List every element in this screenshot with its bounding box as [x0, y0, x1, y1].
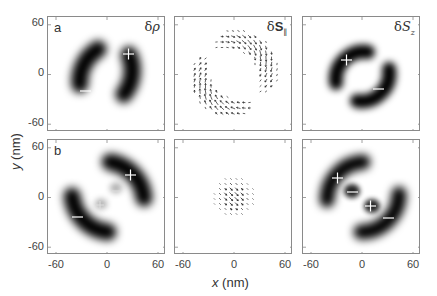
panel-b-density: b: [47, 139, 165, 254]
xtick-1-m60: -60: [41, 258, 71, 270]
y-axis-label: y (nm): [8, 133, 23, 170]
xtick-2-0: 0: [219, 258, 249, 270]
spin-z-map-b: [303, 140, 420, 254]
xtick-1-0: 0: [92, 258, 122, 270]
xtick-3-0: 0: [347, 258, 377, 270]
ytick-b-0: 0: [22, 190, 44, 202]
density-map-a: [48, 17, 165, 131]
ytick-a-60: 60: [22, 16, 44, 28]
panel-a-spin-z: δSz: [302, 16, 420, 131]
xtick-2-m60: -60: [168, 258, 198, 270]
ytick-b-m60: -60: [22, 240, 44, 252]
panel-b-spin-inplane: [174, 139, 292, 254]
xtick-3-60: 60: [398, 258, 428, 270]
row-label-b: b: [54, 143, 61, 158]
panel-b-spin-z: [302, 139, 420, 254]
ytick-b-60: 60: [22, 140, 44, 152]
ytick-a-m60: -60: [22, 116, 44, 128]
ytick-a-0: 0: [22, 66, 44, 78]
quantity-label-delta-S-par: δS∥: [267, 19, 287, 37]
density-map-b: [48, 140, 165, 254]
x-axis-label: x (nm): [212, 275, 249, 290]
row-label-a: a: [54, 20, 61, 35]
quantity-label-delta-Sz: δSz: [394, 19, 415, 37]
panel-a-spin-inplane: δS∥: [174, 16, 292, 131]
vector-field-b: [175, 140, 292, 254]
panel-a-density: a δρ: [47, 16, 165, 131]
xtick-3-m60: -60: [296, 258, 326, 270]
quantity-label-delta-rho: δρ: [145, 19, 160, 34]
